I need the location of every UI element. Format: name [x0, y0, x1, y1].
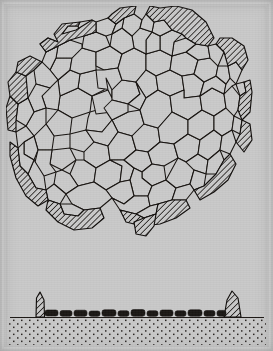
subsoil-stipple	[7, 318, 266, 345]
illustration-figure: Stone surface plan with section Irregula…	[0, 0, 273, 351]
illustration-canvas	[0, 0, 273, 351]
